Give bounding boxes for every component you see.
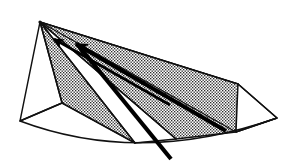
tent-diagram-illustration (0, 0, 290, 161)
apex-vertex-marker (38, 20, 41, 23)
figure-panel: (d) Late Afternoon (0, 0, 290, 161)
